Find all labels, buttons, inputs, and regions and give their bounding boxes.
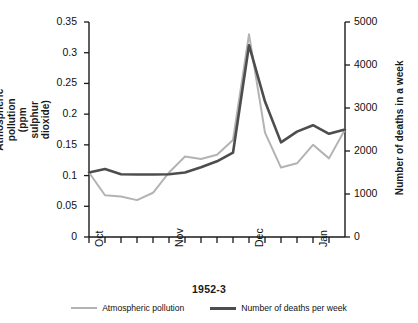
right-axis-tick-label: 1000: [354, 187, 394, 199]
left-axis-tick-label: 0.2: [37, 107, 77, 119]
x-axis-ticks: [89, 237, 329, 243]
left-axis-tick-label: 0.15: [37, 138, 77, 150]
left-axis-ticks: [84, 22, 89, 237]
left-axis-tick-label: 0.1: [37, 169, 77, 181]
x-axis-title: 1952-3: [0, 283, 418, 295]
legend-swatch-icon: [71, 307, 97, 309]
right-axis-tick-label: 3000: [354, 101, 394, 113]
right-axis-tick-label: 4000: [354, 58, 394, 70]
left-axis-tick-label: 0.35: [37, 15, 77, 27]
x-axis-tick-label: Oct: [93, 231, 105, 247]
right-axis-tick-label: 5000: [354, 15, 394, 27]
legend-label: Atmospheric pollution: [102, 303, 184, 313]
right-axis-tick-label: 0: [354, 230, 394, 242]
left-axis-tick-label: 0.05: [37, 199, 77, 211]
legend-item-number-of-deaths-per-week: Number of deaths per week: [210, 303, 347, 313]
right-axis-tick-label: 2000: [354, 144, 394, 156]
x-axis-tick-label: Nov: [173, 228, 185, 247]
legend-label: Number of deaths per week: [241, 303, 347, 313]
legend-swatch-icon: [210, 307, 236, 310]
left-axis-tick-label: 0.3: [37, 46, 77, 58]
left-axis-tick-label: 0: [37, 230, 77, 242]
left-axis-tick-label: 0.25: [37, 76, 77, 88]
chart-container: Atmospheric pollution (ppm sulphur dioxi…: [0, 0, 418, 323]
x-axis-tick-label: Dec: [253, 228, 265, 247]
x-axis-tick-label: Jan: [317, 230, 329, 247]
chart-legend: Atmospheric pollution Number of deaths p…: [0, 303, 418, 313]
legend-item-atmospheric-pollution: Atmospheric pollution: [71, 303, 184, 313]
